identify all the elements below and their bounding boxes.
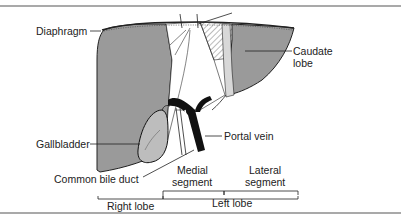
label-medial-segment-2: segment bbox=[172, 176, 212, 188]
label-diaphragm: Diaphragm bbox=[36, 25, 88, 37]
label-gallbladder: Gallbladder bbox=[36, 138, 90, 150]
label-caudate-lobe-1: Caudate bbox=[293, 45, 333, 57]
label-left-lobe: Left lobe bbox=[212, 197, 252, 209]
label-right-lobe: Right lobe bbox=[107, 200, 154, 212]
liver-anatomy-figure: Diaphragm Caudate lobe Gallbladder Porta… bbox=[0, 0, 406, 221]
label-common-bile-duct: Common bile duct bbox=[54, 173, 139, 185]
lateral-segment-bracket bbox=[224, 191, 298, 195]
label-caudate-lobe-2: lobe bbox=[293, 57, 313, 69]
label-lateral-segment-2: segment bbox=[245, 176, 285, 188]
label-medial-segment-1: Medial bbox=[177, 164, 208, 176]
label-portal-vein: Portal vein bbox=[224, 130, 274, 142]
label-lateral-segment-1: Lateral bbox=[249, 164, 281, 176]
right-lobe-bracket bbox=[98, 196, 163, 199]
left-lateral-segment-shape bbox=[228, 24, 294, 94]
